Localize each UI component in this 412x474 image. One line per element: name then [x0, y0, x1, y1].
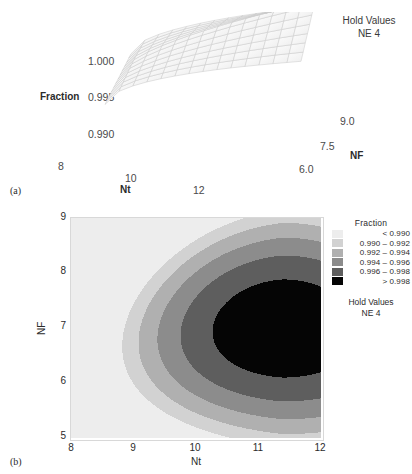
legend-swatch: [332, 230, 343, 238]
contour-legend-rows: < 0.9900.990 – 0.9920.992 – 0.9940.994 –…: [332, 229, 410, 286]
contour-hold-values-value: NE 4: [332, 308, 410, 319]
contour-legend-title: Fraction: [332, 218, 410, 228]
contour-x-tick-9: 9: [124, 442, 142, 453]
contour-graphic: [71, 218, 321, 438]
legend-swatch: [332, 249, 343, 257]
legend-row: 0.990 – 0.992: [332, 239, 410, 249]
contour-y-tick-6: 6: [52, 375, 66, 386]
legend-swatch: [332, 268, 343, 276]
surface-plot-panel: Hold Values NE 4 Fraction 1.000 0.995 0.…: [0, 0, 412, 200]
contour-y-tick-7: 7: [52, 320, 66, 331]
contour-y-tick-9: 9: [52, 211, 66, 222]
surface-hold-values-heading: Hold Values: [330, 14, 408, 27]
contour-x-tick-12: 12: [311, 442, 329, 453]
surface-y-axis-title: NF: [350, 150, 363, 161]
contour-x-tick-11: 11: [249, 442, 267, 453]
surface-x-axis-title: Nt: [120, 184, 131, 195]
contour-x-axis-title: Nt: [176, 456, 216, 467]
contour-y-tick-8: 8: [52, 265, 66, 276]
legend-row: < 0.990: [332, 229, 410, 239]
surface-y-tick-90: 9.0: [340, 115, 355, 127]
surface-z-axis-title: Fraction: [40, 91, 79, 102]
contour-plot-panel: 9 8 7 6 5 NF 8 9 10 11 12 Nt Fraction < …: [0, 200, 412, 474]
legend-label: 0.990 – 0.992: [346, 239, 410, 248]
legend-row: 0.996 – 0.998: [332, 267, 410, 277]
legend-swatch: [332, 258, 343, 266]
contour-y-tick-5: 5: [52, 430, 66, 441]
contour-legend: Fraction < 0.9900.990 – 0.9920.992 – 0.9…: [332, 218, 410, 319]
legend-row: > 0.998: [332, 277, 410, 287]
surface-x-tick-10: 10: [125, 172, 137, 184]
surface-hold-values-value: NE 4: [330, 27, 408, 40]
contour-hold-values-heading: Hold Values: [332, 297, 410, 308]
legend-label: 0.996 – 0.998: [346, 267, 410, 276]
contour-x-tick-10: 10: [186, 442, 204, 453]
contour-x-tick-8: 8: [62, 442, 80, 453]
legend-swatch: [332, 277, 343, 285]
surface-y-tick-60: 6.0: [299, 163, 314, 175]
panel-b-letter: (b): [10, 456, 22, 467]
legend-row: 0.992 – 0.994: [332, 248, 410, 258]
contour-y-axis-title: NF: [36, 322, 47, 335]
surface-mesh-graphic: [95, 12, 330, 142]
surface-x-tick-8: 8: [58, 160, 64, 172]
legend-row: 0.994 – 0.996: [332, 258, 410, 268]
contour-hold-values: Hold Values NE 4: [332, 297, 410, 319]
surface-x-tick-12: 12: [193, 184, 205, 196]
panel-a-letter: (a): [10, 185, 21, 196]
surface-hold-values: Hold Values NE 4: [330, 14, 408, 40]
legend-label: 0.994 – 0.996: [346, 258, 410, 267]
legend-label: < 0.990: [346, 229, 410, 238]
legend-label: > 0.998: [346, 277, 410, 286]
legend-label: 0.992 – 0.994: [346, 248, 410, 257]
contour-plot-area: [70, 217, 324, 441]
legend-swatch: [332, 239, 343, 247]
